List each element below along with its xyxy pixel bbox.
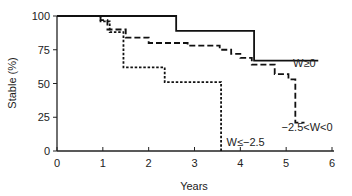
y-tick-label: 75: [38, 44, 50, 56]
x-tick-label: 2: [146, 157, 152, 169]
kaplan-meier-chart: 01234560255075100 W≥0−2.5<W<0W≤−2.5 Year…: [0, 0, 352, 196]
y-tick-label: 50: [38, 78, 50, 90]
curve-label: −2.5<W<0: [282, 121, 333, 133]
x-tick-label: 1: [100, 157, 106, 169]
y-axis-label: Stable (%): [6, 57, 18, 108]
x-tick-label: 6: [329, 157, 335, 169]
y-tick-label: 100: [32, 10, 50, 22]
survival-curves: [57, 16, 318, 151]
curve-w-mid: [57, 16, 305, 123]
curve-label: W≤−2.5: [227, 136, 265, 148]
x-tick-label: 3: [191, 157, 197, 169]
x-tick-label: 4: [237, 157, 243, 169]
y-tick-label: 25: [38, 111, 50, 123]
y-tick-label: 0: [44, 145, 50, 157]
curve-w-ge-0: [57, 16, 318, 61]
x-tick-label: 5: [283, 157, 289, 169]
curve-labels: W≥0−2.5<W<0W≤−2.5: [227, 57, 333, 147]
curve-w-le-neg2-5: [57, 16, 221, 151]
x-tick-label: 0: [54, 157, 60, 169]
x-axis-label: Years: [180, 180, 208, 192]
curve-label: W≥0: [293, 57, 316, 69]
axes: 01234560255075100: [32, 10, 335, 169]
